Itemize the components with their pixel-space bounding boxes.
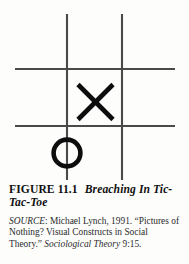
source-lead-label: SOURCE [9, 216, 45, 226]
source-text-after-journal: 9:15. [120, 239, 141, 249]
source-journal-name: Sociological Theory [44, 239, 120, 249]
figure-page: FIGURE 11.1Breaching In Tic-Tac-Toe SOUR… [0, 0, 189, 264]
tic-tac-toe-svg [0, 0, 189, 182]
figure-source-note: SOURCE: Michael Lynch, 1991. “Pictures o… [9, 216, 181, 250]
tic-tac-toe-figure [0, 0, 189, 182]
mark-x-icon [78, 85, 113, 120]
figure-caption: FIGURE 11.1Breaching In Tic-Tac-Toe [9, 183, 184, 209]
figure-caption-label: FIGURE 11.1 [9, 183, 78, 196]
